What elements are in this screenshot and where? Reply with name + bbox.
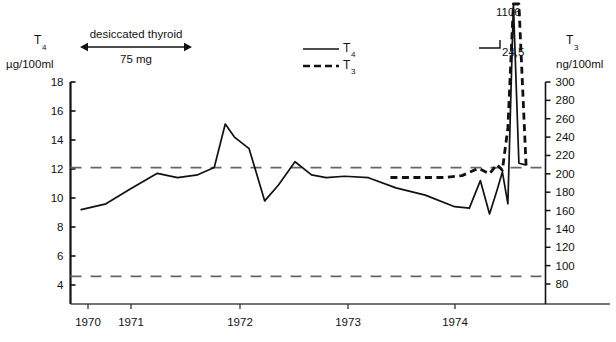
- plot-frame: [71, 82, 611, 304]
- legend: T4T3: [303, 41, 356, 76]
- peak-annotations: 110624,5: [479, 6, 524, 58]
- legend-label-sub: 3: [351, 67, 356, 76]
- right-tick-label: 100: [556, 260, 575, 272]
- left-axis: 1816141210864T4µg/100ml: [6, 33, 76, 291]
- x-axis: 19701971197219731974: [75, 304, 468, 328]
- left-axis-title-sub: 4: [42, 43, 47, 52]
- left-tick-label: 4: [57, 279, 64, 291]
- left-tick-label: 10: [51, 192, 64, 204]
- figure-container: 1816141210864T4µg/100ml30028026024022020…: [0, 0, 616, 342]
- thyroid-hormone-chart: 1816141210864T4µg/100ml30028026024022020…: [0, 0, 616, 342]
- treatment-label: desiccated thyroid: [90, 28, 183, 40]
- right-tick-label: 160: [556, 205, 575, 217]
- arrow-head-left-icon: [80, 43, 88, 51]
- legend-label: T: [343, 41, 351, 55]
- left-tick-label: 6: [57, 250, 63, 262]
- right-tick-label: 220: [556, 149, 575, 161]
- right-tick-label: 80: [556, 278, 569, 290]
- left-axis-title: T: [34, 33, 42, 47]
- right-tick-label: 280: [556, 94, 575, 106]
- right-axis-unit: ng/100ml: [556, 58, 603, 70]
- right-tick-label: 300: [556, 76, 575, 88]
- t3-series-line: [390, 4, 526, 177]
- right-axis-title: T: [566, 33, 574, 47]
- right-tick-label: 140: [556, 223, 575, 235]
- left-tick-label: 8: [57, 221, 63, 233]
- t3-peak-value-label: 1106: [496, 6, 521, 18]
- x-tick-label: 1972: [227, 316, 253, 328]
- t4-peak-value-label: 24,5: [502, 46, 524, 58]
- right-tick-label: 240: [556, 131, 575, 143]
- left-tick-label: 18: [51, 76, 64, 88]
- left-tick-label: 16: [51, 105, 64, 117]
- right-axis-title-sub: 3: [574, 43, 579, 52]
- right-tick-label: 200: [556, 168, 575, 180]
- x-tick-label: 1974: [442, 316, 468, 328]
- arrow-head-right-icon: [184, 43, 192, 51]
- left-axis-unit: µg/100ml: [6, 58, 54, 70]
- reference-lines: [71, 168, 546, 277]
- legend-label-sub: 4: [351, 50, 356, 59]
- left-tick-label: 12: [51, 163, 64, 175]
- x-tick-label: 1973: [335, 316, 361, 328]
- legend-label: T: [343, 58, 351, 72]
- right-axis: 30028026024022020018016014012010080T3ng/…: [546, 33, 604, 290]
- left-tick-label: 14: [51, 134, 64, 146]
- treatment-dose: 75 mg: [120, 53, 152, 65]
- x-tick-label: 1971: [118, 316, 144, 328]
- right-tick-label: 180: [556, 186, 575, 198]
- t4-peak-bracket: [479, 40, 500, 48]
- right-tick-label: 120: [556, 241, 575, 253]
- x-tick-label: 1970: [75, 316, 101, 328]
- treatment-bar: desiccated thyroid75 mg: [80, 28, 192, 65]
- right-tick-label: 260: [556, 113, 575, 125]
